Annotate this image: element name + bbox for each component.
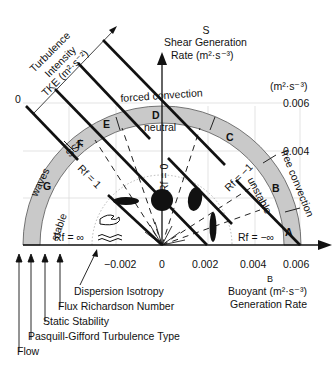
shear-symbol: S [196, 24, 216, 36]
x-tick: 0.002 [192, 258, 218, 270]
x-tick: 0.004 [240, 258, 266, 270]
shear-title-line2: Rate (m²·s⁻³) [171, 49, 234, 61]
legend-flux-richardson: Flux Richardson Number [58, 300, 174, 312]
legend-flow: Flow [17, 345, 39, 357]
x-tick: −0.002 [104, 258, 136, 270]
breaking-wave-icon [100, 215, 120, 225]
neutral-label: neutral [144, 121, 176, 133]
y-axis-arrow-icon [157, 52, 167, 65]
rf-zero-label: Rf = 0 [158, 164, 170, 192]
legend-dispersion-isotropy: Dispersion Isotropy [74, 285, 164, 297]
x-tick: 0 [159, 258, 165, 270]
buoyant-title-line2: Generation Rate [230, 298, 307, 310]
waves-icon [98, 235, 122, 242]
y-tick: 0.006 [283, 97, 309, 109]
buoyant-title-line1: Buoyant (m²·s⁻³) [228, 285, 307, 297]
class-d: D [152, 109, 160, 121]
rf-minus-inf-label: Rf = −∞ [238, 231, 274, 243]
tke-zero-label: 0 [15, 93, 21, 105]
class-b: B [272, 182, 280, 194]
legend-static-stability: Static Stability [43, 315, 109, 327]
x-tick: 0.006 [283, 258, 309, 270]
shear-title-line1: Shear Generation [164, 36, 247, 48]
class-c: C [226, 131, 234, 143]
x-axis-arrow-icon [318, 240, 332, 250]
isotropy-arrow-icon [92, 249, 98, 257]
buoyant-symbol: B [267, 273, 273, 285]
tke-axis-arrow-icon [109, 26, 117, 34]
y-unit-label: (m²·s⁻³) [270, 80, 307, 92]
class-e: E [103, 118, 110, 130]
legend-pasquill-gifford: Pasquill-Gifford Turbulence Type [28, 330, 180, 342]
class-a: A [285, 226, 293, 238]
rf-inf-label: Rf = ∞ [54, 231, 84, 243]
